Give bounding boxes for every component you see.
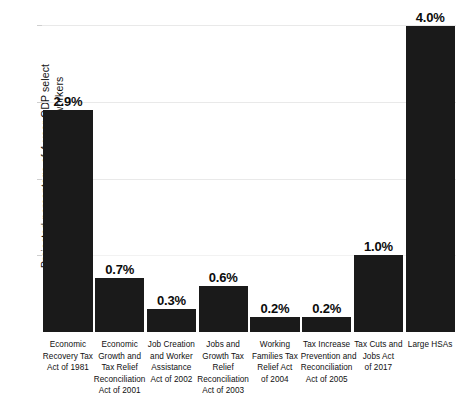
bar-value-label: 0.2%: [312, 301, 341, 316]
bar-value-label: 0.7%: [105, 262, 134, 277]
bar-chart: Projected percentage of 4-year GDP selec…: [0, 0, 462, 407]
x-axis-label-line: Act of 2002: [146, 374, 198, 386]
x-axis-label: EconomicGrowth andTax ReliefReconciliati…: [94, 334, 146, 397]
x-axis-label-line: Prevention and: [301, 351, 353, 363]
x-axis-label-line: Economic: [94, 339, 146, 351]
x-axis-label: Jobs andGrowth TaxReliefReconciliationAc…: [197, 334, 249, 397]
x-axis-label-line: Large HSAs: [404, 339, 456, 351]
x-axis-label-line: Relief Act: [249, 362, 301, 374]
x-axis-label-line: Working: [249, 339, 301, 351]
x-axis-label: Tax Cuts andJobs Actof 2017: [353, 334, 405, 374]
x-axis-label-line: Jobs and: [197, 339, 249, 351]
x-axis-label-line: Act of 2005: [301, 374, 353, 386]
x-axis-label-line: of 2017: [353, 362, 405, 374]
bar[interactable]: [95, 278, 144, 332]
bar-group[interactable]: 4.0%: [404, 10, 456, 332]
x-axis-label-line: Tax Relief: [94, 362, 146, 374]
bar-group[interactable]: 0.2%: [301, 10, 353, 332]
x-axis-label-line: of 2004: [249, 374, 301, 386]
x-axis-label: Job Creationand WorkerAssistanceAct of 2…: [146, 334, 198, 385]
x-axis-category-labels: EconomicRecovery TaxAct of 1981EconomicG…: [42, 334, 456, 407]
bar[interactable]: [250, 317, 299, 332]
bar[interactable]: [147, 309, 196, 332]
bar-value-label: 1.0%: [364, 239, 393, 254]
x-axis-label-line: and Worker: [146, 351, 198, 363]
x-axis-label-line: Economic: [42, 339, 94, 351]
x-axis-label-line: Tax Cuts and: [353, 339, 405, 351]
x-axis-label-line: Tax Increase: [301, 339, 353, 351]
x-axis-label-line: Jobs Act: [353, 351, 405, 363]
bar-group[interactable]: 1.0%: [353, 10, 405, 332]
x-axis-label-line: Recovery Tax: [42, 351, 94, 363]
y-axis-title: Projected percentage of 4-year GDP selec…: [0, 0, 40, 340]
bar[interactable]: [406, 26, 455, 332]
x-axis-label: Large HSAs: [404, 334, 456, 351]
bar[interactable]: [354, 255, 403, 332]
x-axis-label-line: Act of 2003: [197, 385, 249, 397]
bar-value-label: 4.0%: [416, 10, 445, 25]
bar-value-label: 2.9%: [53, 94, 82, 109]
bar-group[interactable]: 0.3%: [146, 10, 198, 332]
bar[interactable]: [302, 317, 351, 332]
x-axis-label-line: Growth and: [94, 351, 146, 363]
x-axis-label-line: Job Creation: [146, 339, 198, 351]
x-axis-label: WorkingFamilies TaxRelief Actof 2004: [249, 334, 301, 385]
x-axis-label-line: Act of 2001: [94, 385, 146, 397]
x-axis-label-line: Assistance: [146, 362, 198, 374]
x-axis-label-line: Growth Tax: [197, 351, 249, 363]
bar-series: 2.9%0.7%0.3%0.6%0.2%0.2%1.0%4.0%: [42, 10, 456, 332]
plot-area: 2.9%0.7%0.3%0.6%0.2%0.2%1.0%4.0%: [42, 10, 456, 332]
x-axis-label-line: Families Tax: [249, 351, 301, 363]
bar-group[interactable]: 0.7%: [94, 10, 146, 332]
bar-group[interactable]: 2.9%: [42, 10, 94, 332]
bar[interactable]: [43, 110, 92, 332]
bar-value-label: 0.3%: [157, 293, 186, 308]
bar-value-label: 0.2%: [260, 301, 289, 316]
x-axis-label-line: Reconciliation: [94, 374, 146, 386]
bar-value-label: 0.6%: [209, 270, 238, 285]
bar-group[interactable]: 0.6%: [197, 10, 249, 332]
x-axis-label-line: Reconciliation: [301, 362, 353, 374]
x-axis-label: Tax IncreasePrevention andReconciliation…: [301, 334, 353, 385]
x-axis-label-line: Relief: [197, 362, 249, 374]
bar-group[interactable]: 0.2%: [249, 10, 301, 332]
x-axis-label-line: Reconciliation: [197, 374, 249, 386]
bar[interactable]: [199, 286, 248, 332]
x-axis-label-line: Act of 1981: [42, 362, 94, 374]
x-axis-label: EconomicRecovery TaxAct of 1981: [42, 334, 94, 374]
